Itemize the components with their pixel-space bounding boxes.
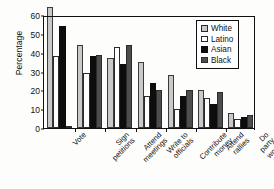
bar — [247, 115, 253, 128]
bar-group — [168, 16, 193, 128]
legend-item[interactable]: Black — [201, 56, 233, 65]
bar-group — [47, 16, 72, 128]
bar-group — [77, 16, 102, 128]
bar — [186, 90, 192, 128]
x-axis-tick-labels: VoteSign petitionsAttend meetingsWrite t… — [43, 131, 255, 189]
legend-item[interactable]: White — [201, 24, 233, 33]
y-tick-mark — [41, 129, 45, 130]
legend-label: White — [211, 24, 232, 33]
bar — [96, 55, 102, 128]
legend-swatch-icon — [201, 46, 208, 53]
bar — [217, 92, 223, 128]
bar-group — [107, 16, 132, 128]
bar — [66, 126, 72, 128]
bar — [126, 45, 132, 128]
x-tick-label: Sign petitions — [105, 131, 137, 163]
plot-top-border — [43, 16, 255, 17]
legend-item[interactable]: Latino — [201, 35, 233, 44]
legend-swatch-icon — [201, 25, 208, 32]
x-tick-label: Do party work — [252, 131, 274, 161]
legend-item[interactable]: Asian — [201, 45, 233, 54]
bar — [59, 26, 65, 128]
legend-swatch-icon — [201, 57, 208, 64]
x-tick-label: Write to officials — [165, 131, 195, 161]
bar — [156, 90, 162, 128]
legend-label: Asian — [211, 45, 231, 54]
legend-label: Latino — [211, 35, 233, 44]
bar-chart-figure: Percentage 0102030405060 VoteSign petiti… — [0, 0, 274, 189]
bar-group — [138, 16, 163, 128]
chart-legend: WhiteLatinoAsianBlack — [196, 20, 239, 69]
legend-swatch-icon — [201, 36, 208, 43]
y-axis-title: Percentage — [14, 8, 24, 98]
x-tick-label: Vote — [71, 131, 88, 148]
legend-label: Black — [211, 56, 231, 65]
plot-right-border — [254, 16, 255, 130]
